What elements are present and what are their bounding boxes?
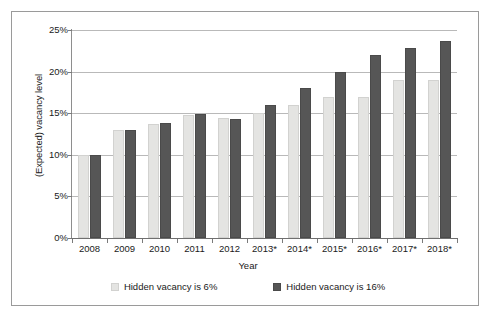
x-tick-mark <box>107 239 108 243</box>
light-gray-swatch <box>111 283 119 291</box>
bar-group <box>247 30 282 238</box>
bar <box>300 88 311 238</box>
bar <box>230 119 241 238</box>
x-tick-mark <box>457 239 458 243</box>
x-tick-mark <box>142 239 143 243</box>
x-tick-label: 2018* <box>422 243 457 254</box>
bar <box>323 97 334 238</box>
x-tick-mark <box>177 239 178 243</box>
bar <box>218 118 229 238</box>
x-tick-label: 2016* <box>352 243 387 254</box>
x-tick-label: 2010 <box>142 243 177 254</box>
x-tick-mark <box>247 239 248 243</box>
legend-entry: Hidden vacancy is 16% <box>273 281 385 292</box>
chart-legend: Hidden vacancy is 6%Hidden vacancy is 16… <box>0 281 496 292</box>
bar <box>428 80 439 238</box>
legend-entry: Hidden vacancy is 6% <box>111 281 217 292</box>
bar-group <box>107 30 142 238</box>
bar <box>148 124 159 238</box>
bar <box>253 113 264 238</box>
x-tick-label: 2009 <box>107 243 142 254</box>
y-tick-label: 20% <box>28 67 68 77</box>
bar <box>160 123 171 238</box>
bar <box>370 55 381 238</box>
bar-group <box>317 30 352 238</box>
x-tick-mark <box>352 239 353 243</box>
bar <box>265 105 276 238</box>
bar-group <box>212 30 247 238</box>
x-tick-label: 2012 <box>212 243 247 254</box>
bar <box>195 114 206 238</box>
x-tick-mark <box>422 239 423 243</box>
bar-group <box>387 30 422 238</box>
x-tick-label: 2008 <box>72 243 107 254</box>
x-tick-mark <box>317 239 318 243</box>
y-tick-label: 5% <box>28 191 68 201</box>
x-axis-tick-labels: 200820092010201120122013*2014*2015*2016*… <box>72 243 457 259</box>
y-tick-label: 0% <box>28 233 68 243</box>
bar <box>288 105 299 238</box>
bar <box>90 155 101 238</box>
bar-group <box>142 30 177 238</box>
x-tick-mark <box>282 239 283 243</box>
bar <box>405 48 416 238</box>
y-tick-label: 15% <box>28 108 68 118</box>
x-tick-label: 2015* <box>317 243 352 254</box>
x-tick-label: 2014* <box>282 243 317 254</box>
legend-label: Hidden vacancy is 6% <box>124 281 217 292</box>
bar-group <box>177 30 212 238</box>
legend-label: Hidden vacancy is 16% <box>286 281 385 292</box>
x-axis-line <box>71 238 458 239</box>
x-tick-mark <box>387 239 388 243</box>
bar <box>393 80 404 238</box>
bar-group <box>282 30 317 238</box>
y-tick-label: 25% <box>28 25 68 35</box>
bar <box>440 41 451 238</box>
x-tick-mark <box>72 239 73 243</box>
dark-gray-swatch <box>273 283 281 291</box>
bar <box>113 130 124 238</box>
bar-group <box>422 30 457 238</box>
x-axis-title: Year <box>0 260 496 271</box>
plot-area <box>72 30 457 238</box>
bar <box>358 97 369 238</box>
y-axis-tick-labels: 0%5%10%15%20%25% <box>28 24 68 246</box>
x-tick-label: 2017* <box>387 243 422 254</box>
chart-figure: (Expected) vacancy level 0%5%10%15%20%25… <box>0 0 496 324</box>
bar <box>335 72 346 238</box>
x-tick-label: 2013* <box>247 243 282 254</box>
y-tick-label: 10% <box>28 150 68 160</box>
bar-group <box>352 30 387 238</box>
bar <box>78 155 89 238</box>
x-tick-label: 2011 <box>177 243 212 254</box>
bar <box>183 115 194 238</box>
bar-group <box>72 30 107 238</box>
x-tick-mark <box>212 239 213 243</box>
bar <box>125 130 136 238</box>
